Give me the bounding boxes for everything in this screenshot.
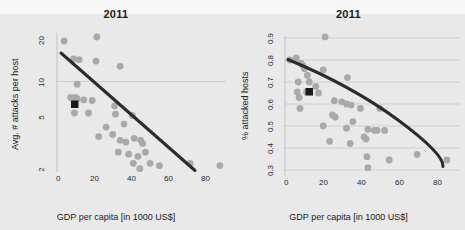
x-axis-title-left: GDP per capita [in 1000 US$]: [0, 212, 232, 222]
x-tick-left-40: 40: [127, 174, 136, 183]
highlight-marker-square-right: [306, 88, 314, 96]
x-tick-left-20: 20: [90, 174, 99, 183]
x-tick-right-60: 60: [395, 178, 404, 187]
x-axis-title-right: GDP per capita [in 1000 US$]: [232, 212, 465, 222]
y-tick-right-0.6: 0.6: [266, 94, 275, 116]
panel-left-plot: [0, 0, 232, 230]
y-tick-left-5: 5: [37, 111, 46, 125]
x-tick-right-0: 0: [284, 178, 288, 187]
y-tick-left-20: 20: [37, 31, 46, 51]
x-tick-left-60: 60: [164, 174, 173, 183]
panel-attacked-hosts: 2011: [232, 0, 465, 230]
y-axis-title-left: Avg. # attacks per host: [10, 59, 20, 150]
y-tick-right-0.8: 0.8: [266, 50, 275, 72]
y-tick-right-0.9: 0.9: [266, 28, 275, 50]
x-tick-right-40: 40: [357, 178, 366, 187]
y-tick-left-10: 10: [37, 73, 46, 93]
y-tick-right-0.3: 0.3: [266, 160, 275, 182]
y-tick-right-0.5: 0.5: [266, 116, 275, 138]
scatter-points-right: [286, 34, 450, 172]
panel-attacks-per-host: 2011: [0, 0, 232, 230]
x-tick-right-80: 80: [433, 178, 442, 187]
trend-curve-right: [288, 60, 443, 167]
x-tick-right-20: 20: [319, 178, 328, 187]
x-tick-left-80: 80: [201, 174, 210, 183]
scatter-points-left: [61, 34, 224, 173]
figure-two-panel-scatter: 2011: [0, 0, 465, 230]
y-axis-title-right: % attacked hosts: [240, 71, 250, 140]
highlight-marker-square-left: [71, 101, 79, 109]
y-tick-right-0.4: 0.4: [266, 138, 275, 160]
y-tick-left-2: 2: [37, 163, 46, 177]
x-tick-left-0: 0: [56, 174, 60, 183]
y-tick-right-0.7: 0.7: [266, 72, 275, 94]
